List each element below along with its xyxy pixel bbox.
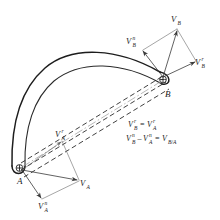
vector-label-va-n-sub: A — [44, 207, 49, 213]
kinematics-diagram: A B V B V B n V B r V A V A n — [0, 0, 220, 220]
vector-label-vb-n-sup: n — [133, 35, 136, 41]
dashed-line-lower — [24, 89, 169, 177]
eq2-v1-sub: B — [132, 139, 136, 145]
vector-va-line — [22, 170, 77, 180]
vector-label-va-sub: A — [86, 184, 91, 190]
eq1-v1-sub: B — [134, 125, 138, 131]
vector-label-va-r-sup: r — [62, 128, 65, 134]
eq1-v2-sub: A — [152, 125, 157, 131]
eq2-v2-sub: A — [148, 139, 153, 145]
vector-va-n-line — [22, 170, 41, 198]
eq1-operator: = — [140, 120, 145, 129]
eq2-v2-sup: n — [149, 132, 152, 138]
vector-vb-r-line — [163, 62, 195, 77]
eq2-v3-sub: B/A — [168, 139, 177, 145]
vector-label-va-n: V A n — [38, 200, 49, 213]
eq2-v1-sup: n — [132, 132, 135, 138]
equation-line-2: V B n – V A n = V B/A — [126, 132, 177, 145]
vector-label-vb-sub: B — [178, 20, 182, 26]
point-label-a: A — [16, 176, 23, 186]
triangle-b-side-right — [177, 29, 196, 61]
vector-label-va: V A — [80, 178, 91, 190]
triangle-a-side-bottom — [42, 181, 79, 199]
equation-line-1: V B r = V A r — [128, 118, 157, 131]
eq1-v1-sup: r — [134, 118, 137, 124]
vector-label-vb-r: V B r — [195, 56, 206, 69]
vector-label-va-r-sub: A — [61, 135, 66, 141]
link-inner-edge — [25, 66, 162, 166]
equation-block: V B r = V A r V B n – V A n = V B/A — [126, 118, 177, 145]
vector-vb-line — [163, 31, 177, 77]
eq2-operator-1: – — [137, 134, 143, 143]
figure-root: A B V B V B n V B r V A V A n — [0, 0, 220, 220]
velocity-triangle-a — [22, 141, 79, 199]
vector-va-r-line — [22, 142, 61, 170]
vector-label-va-r: V A r — [55, 128, 66, 141]
eq1-v2-sup: r — [153, 118, 156, 124]
vector-label-vb-n: V B n — [126, 35, 137, 48]
curved-link-body — [12, 52, 169, 173]
eq2-operator-2: = — [155, 134, 160, 143]
vector-label-vb: V B — [171, 14, 182, 26]
triangle-a-side-upper — [62, 141, 79, 180]
vector-label-vb-n-sub: B — [133, 42, 137, 48]
point-label-b: B — [165, 89, 171, 99]
velocity-triangle-b — [143, 29, 196, 77]
vector-label-vb-r-sub: B — [202, 63, 206, 69]
vector-label-va-n-sup: n — [45, 200, 48, 206]
vector-label-vb-r-sup: r — [202, 56, 205, 62]
